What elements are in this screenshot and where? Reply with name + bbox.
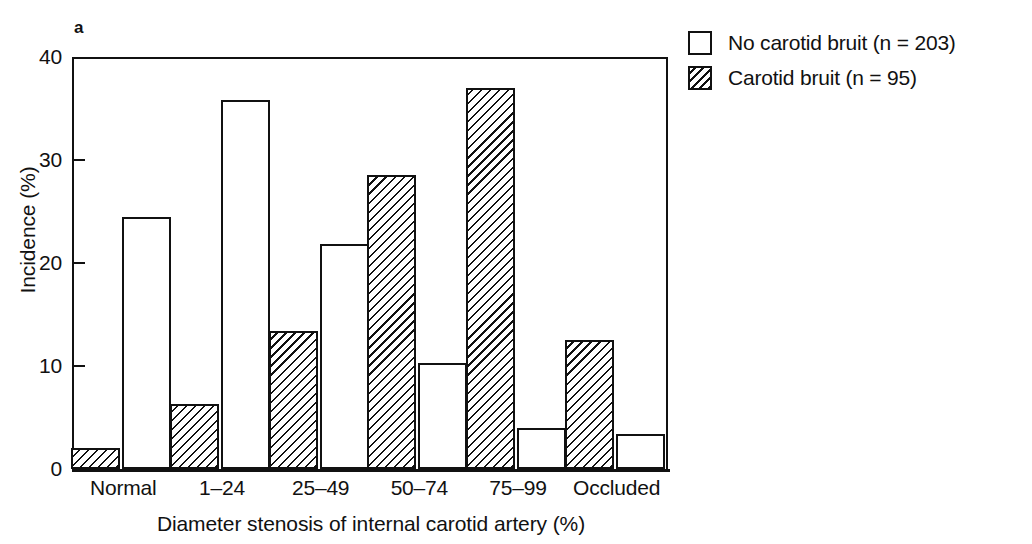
legend-label: Carotid bruit (n = 95) bbox=[728, 66, 917, 90]
panel-letter: a bbox=[74, 18, 84, 38]
y-tick-label-text: 0 bbox=[18, 458, 62, 479]
figure-panel-a: a 010203040 Incidence (%) Normal1–2425–4… bbox=[0, 0, 1032, 544]
chart-legend: No carotid bruit (n = 203)Carotid bruit … bbox=[688, 30, 956, 100]
plot-right-border bbox=[666, 57, 668, 471]
y-tick-mark bbox=[72, 365, 85, 367]
x-tick-label-5074: 50–74 bbox=[370, 476, 469, 500]
legend-item: No carotid bruit (n = 203) bbox=[688, 30, 956, 56]
x-axis-title: Diameter stenosis of internal carotid ar… bbox=[72, 512, 670, 536]
y-tick-mark bbox=[72, 159, 85, 161]
x-tick-label-Occluded: Occluded bbox=[567, 476, 666, 500]
legend-swatch-open-icon bbox=[688, 31, 712, 55]
x-tick-label-124: 1–24 bbox=[173, 476, 272, 500]
x-axis-line bbox=[72, 469, 670, 472]
legend-item: Carotid bruit (n = 95) bbox=[688, 65, 956, 91]
x-tick-label-2549: 25–49 bbox=[271, 476, 370, 500]
legend-swatch-hatched-icon bbox=[688, 66, 712, 90]
y-tick-label-text: 40 bbox=[18, 46, 62, 67]
x-tick-label-7599: 75–99 bbox=[469, 476, 568, 500]
y-tick-label: 40 bbox=[12, 46, 62, 67]
y-axis-title: Incidence (%) bbox=[16, 130, 40, 330]
legend-label: No carotid bruit (n = 203) bbox=[728, 31, 956, 55]
y-tick-label: 10 bbox=[12, 355, 62, 376]
x-tick-label-Normal: Normal bbox=[74, 476, 173, 500]
y-tick-label: 0 bbox=[12, 458, 62, 479]
y-tick-mark bbox=[72, 262, 85, 264]
y-tick-label-text: 10 bbox=[18, 355, 62, 376]
plot-area bbox=[72, 57, 668, 470]
